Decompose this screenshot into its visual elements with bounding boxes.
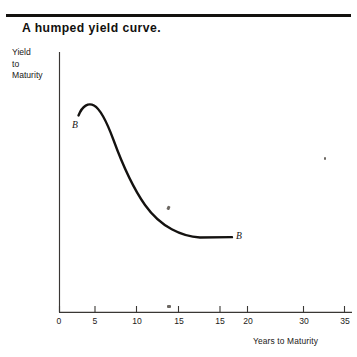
plot-area — [0, 0, 357, 357]
x-tick-label-5: 20 — [243, 316, 253, 326]
curve-label-right-b: B — [236, 230, 242, 241]
x-tick-label-6: 30 — [299, 316, 309, 326]
x-tick-label-0: 0 — [57, 316, 62, 326]
x-tick-label-1: 5 — [93, 316, 98, 326]
x-tick-label-7: 35 — [340, 316, 350, 326]
figure-yield-curve: A humped yield curve. Yield to Maturity … — [0, 0, 357, 357]
x-tick-label-3: 15 — [174, 316, 184, 326]
yield-curve-path — [79, 104, 233, 237]
x-axis-ticks — [60, 306, 345, 312]
curve-label-left-b: B — [72, 119, 78, 130]
x-tick-label-2: 10 — [132, 316, 142, 326]
x-tick-label-4: 15 — [215, 316, 225, 326]
x-axis-title: Years to Maturity — [253, 336, 318, 346]
scan-speck-icon — [167, 305, 171, 308]
